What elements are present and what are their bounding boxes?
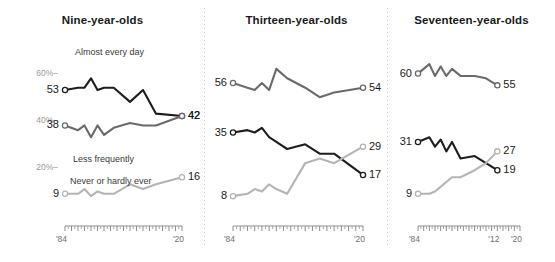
series-endpoint-seventeen-year-olds-never_or_hardly_ever-start xyxy=(415,191,420,196)
annotation-almost-every-day: Almost every day xyxy=(75,47,144,57)
annotation-less-frequently: Less frequently xyxy=(73,154,134,164)
x-tick-label-seventeen-year-olds-0: '84 xyxy=(409,234,420,244)
value-label-seventeen-year-olds-less_frequently-start: 60 xyxy=(0,67,412,79)
series-line-seventeen-year-olds-less_frequently xyxy=(418,64,497,85)
plot-svg-seventeen-year-olds xyxy=(0,0,555,262)
annotation-never-or-hardly-ever: Never or hardly ever xyxy=(70,176,152,186)
value-label-seventeen-year-olds-almost_every_day-start: 31 xyxy=(0,135,412,147)
x-tick-label-seventeen-year-olds-2: '20 xyxy=(511,234,522,244)
series-endpoint-seventeen-year-olds-almost_every_day-start xyxy=(415,139,420,144)
series-line-seventeen-year-olds-never_or_hardly_ever xyxy=(418,151,497,193)
value-label-seventeen-year-olds-never_or_hardly_ever-end: 27 xyxy=(503,144,515,156)
value-label-seventeen-year-olds-almost_every_day-end: 19 xyxy=(503,163,515,175)
series-endpoint-seventeen-year-olds-less_frequently-start xyxy=(415,71,420,76)
x-tick-label-seventeen-year-olds-1: '12 xyxy=(488,234,499,244)
series-endpoint-seventeen-year-olds-less_frequently-end xyxy=(495,83,500,88)
series-line-seventeen-year-olds-almost_every_day xyxy=(418,137,497,170)
chart-root: 60%–40%–20%–Nine-year-olds53423842916'84… xyxy=(0,0,555,262)
series-endpoint-seventeen-year-olds-almost_every_day-end xyxy=(495,168,500,173)
series-endpoint-seventeen-year-olds-never_or_hardly_ever-end xyxy=(495,149,500,154)
value-label-seventeen-year-olds-less_frequently-end: 55 xyxy=(503,78,515,90)
value-label-seventeen-year-olds-never_or_hardly_ever-start: 9 xyxy=(0,187,412,199)
